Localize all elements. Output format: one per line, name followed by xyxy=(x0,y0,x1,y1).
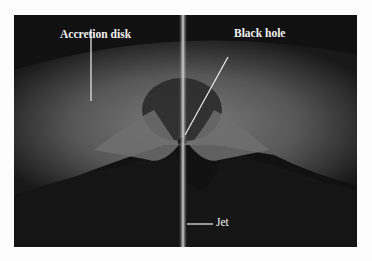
label-jet: Jet xyxy=(216,216,229,228)
accretion-disk-artwork xyxy=(14,15,357,247)
black-hole-illustration: Accretion disk Black hole Jet xyxy=(14,15,357,247)
label-accretion-disk: Accretion disk xyxy=(60,28,131,40)
jet-beam xyxy=(179,15,187,247)
label-black-hole: Black hole xyxy=(234,27,285,39)
